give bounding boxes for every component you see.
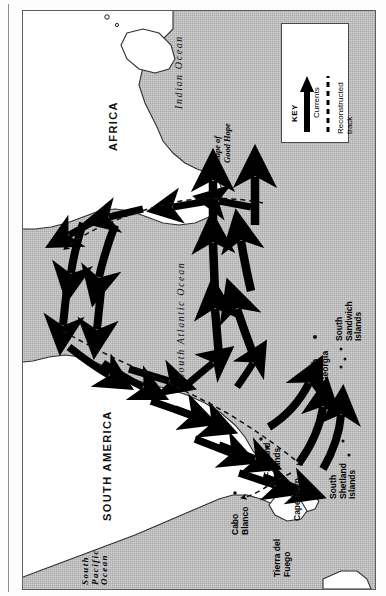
label-south-pacific-ocean: South Pacific Ocean — [81, 549, 110, 585]
current-arrow — [237, 309, 255, 359]
label-south-shetland-islands: South Shetland Islands — [329, 453, 358, 499]
place-marker-cape-horn — [283, 477, 287, 481]
label-falkland-islands: Falkland Islands — [263, 443, 282, 477]
place-marker-sandwich — [344, 358, 347, 361]
label-cabo-blanco: Cabo Blanco — [231, 507, 250, 535]
current-arrow — [237, 363, 253, 387]
legend-reconstructed-track-icon — [326, 76, 330, 132]
current-arrow — [175, 409, 211, 423]
current-arrow — [213, 243, 215, 293]
current-arrow — [63, 287, 67, 325]
page-spine-rule — [8, 4, 9, 592]
legend-title: KEY — [290, 104, 299, 122]
place-marker-shetland — [341, 439, 344, 442]
current-arrow — [219, 201, 251, 207]
current-arrow — [189, 363, 213, 383]
current-arrow — [241, 241, 251, 291]
place-marker-sandwich — [340, 348, 343, 351]
place-marker-cabo-blanco — [233, 491, 237, 495]
label-tierra-del-fuego: Tierra del Fuego — [273, 539, 292, 577]
legend-currents-label: Currents — [312, 87, 321, 118]
current-arrow — [99, 225, 115, 277]
map-plate: AFRICA SOUTH AMERICA Indian Ocean South … — [22, 10, 376, 590]
current-arrow — [299, 407, 323, 463]
current-arrow — [269, 383, 309, 427]
place-marker-falkland — [259, 437, 263, 441]
map-legend: KEY Currents Reconstructed track — [281, 23, 349, 143]
legend-reconstructed-track-label: Reconstructed track — [336, 82, 354, 134]
current-arrow — [97, 291, 101, 329]
label-south-sandwich-islands: South Sandwich Islands — [335, 301, 364, 341]
place-marker-south-georgia — [313, 335, 317, 339]
label-cape-of-good-hope: Cape of Good Hope — [213, 123, 232, 163]
map-page: AFRICA SOUTH AMERICA Indian Ocean South … — [0, 0, 386, 596]
current-arrow — [69, 347, 109, 375]
place-marker-sandwich — [340, 366, 343, 369]
label-south-georgia: South Georgia — [311, 351, 330, 383]
current-arrow — [215, 309, 219, 357]
